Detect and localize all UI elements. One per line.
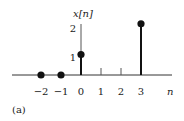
x-tick-label: 2: [118, 86, 124, 97]
x-tick-label: −1: [54, 86, 69, 97]
stem-marker: [137, 20, 144, 27]
stem-marker: [57, 71, 64, 78]
y-tick-label: 1: [70, 52, 76, 63]
x-tick-label: 0: [78, 86, 84, 97]
y-tick-label: 2: [70, 23, 76, 34]
figure-caption: (a): [12, 104, 26, 115]
x-axis-label: n: [167, 86, 173, 97]
stem-marker: [37, 71, 44, 78]
y-axis-label: x[n]: [73, 8, 93, 19]
x-tick-label: −2: [34, 86, 49, 97]
stem-marker: [77, 51, 84, 58]
x-tick-label: 1: [98, 86, 104, 97]
stem-plot: −2−1012312 x[n] n (a): [0, 0, 184, 121]
x-tick-label: 3: [138, 86, 144, 97]
